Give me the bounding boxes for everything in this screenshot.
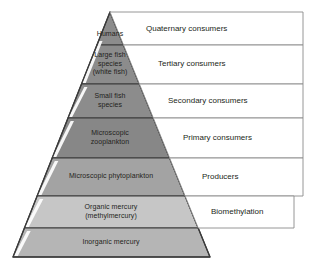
trophic-role-label-secondary: Secondary consumers (168, 96, 248, 106)
trophic-role-label-producers: Producers (202, 172, 238, 182)
trophic-role-label-tertiary: Tertiary consumers (158, 59, 226, 69)
biomethylation-label: Biomethylation (211, 207, 263, 217)
biomagnification-pyramid-figure: Humans Large fish species (white fish) S… (0, 0, 316, 270)
pyramid-tier-label-zooplankton: Microscopic zooplankton (72, 129, 148, 146)
trophic-role-label-quaternary: Quaternary consumers (146, 24, 227, 34)
pyramid-tier-label-phytoplankton: Microscopic phytoplankton (50, 172, 172, 181)
pyramid-diagram-canvas (0, 0, 316, 270)
pyramid-tier-label-small-fish: Small fish species (72, 92, 148, 109)
pyramid-tier-label-inorganic-mercury: Inorganic mercury (53, 238, 169, 247)
pyramid-tier-label-organic-mercury: Organic mercury (methylmercury) (56, 203, 166, 220)
trophic-role-label-primary: Primary consumers (183, 133, 252, 143)
pyramid-tier-label-large-fish: Large fish species (white fish) (72, 51, 148, 77)
pyramid-tier-label-humans: Humans (72, 30, 148, 39)
